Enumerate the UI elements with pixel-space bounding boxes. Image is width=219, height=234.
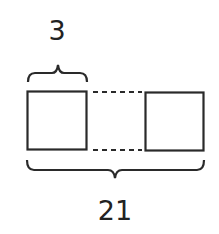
right-square <box>146 93 204 151</box>
top-label: 3 <box>48 15 65 46</box>
top-brace <box>28 65 87 82</box>
square-row-diagram: 3 21 <box>0 0 219 234</box>
bottom-brace <box>27 160 204 178</box>
bottom-label: 21 <box>98 195 132 226</box>
left-square <box>28 92 87 150</box>
